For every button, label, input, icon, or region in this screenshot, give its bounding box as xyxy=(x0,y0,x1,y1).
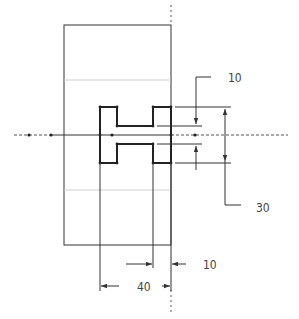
dim-10-top-label: 10 xyxy=(228,71,242,85)
dim-40-label: 40 xyxy=(137,280,151,294)
dim-30-label: 30 xyxy=(256,201,270,215)
point-marker xyxy=(27,133,30,136)
point-marker xyxy=(110,133,113,136)
dim-30-leader xyxy=(225,161,241,205)
dim-10-leader xyxy=(196,77,211,124)
dim-10-flange-label: 10 xyxy=(203,258,217,272)
point-marker xyxy=(49,133,52,136)
point-marker xyxy=(193,133,196,136)
sketch-canvas: 10 30 10 40 xyxy=(0,0,299,319)
